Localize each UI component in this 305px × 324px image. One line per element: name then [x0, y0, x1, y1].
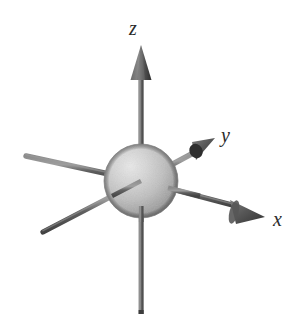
x-axis-arrowhead	[227, 199, 265, 225]
coordinate-axes-figure: z y x	[0, 0, 305, 324]
axes-drawing	[0, 0, 305, 324]
axis-label-y: y	[221, 125, 230, 145]
z-axis-arrowhead	[131, 45, 152, 80]
axis-label-x: x	[273, 209, 282, 229]
axis-label-z: z	[129, 18, 137, 38]
z-axis-front-stub	[139, 206, 144, 222]
